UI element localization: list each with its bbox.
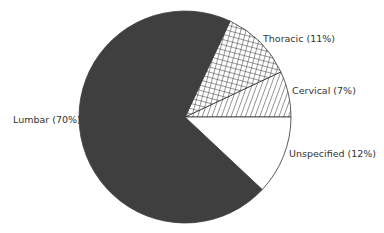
label-cervical: Cervical (7%) [292, 85, 356, 96]
label-unspecified: Unspecified (12%) [289, 148, 376, 159]
label-thoracic: Thoracic (11%) [263, 33, 335, 44]
label-lumbar: Lumbar (70%) [13, 114, 81, 125]
pie-slices [79, 11, 291, 223]
